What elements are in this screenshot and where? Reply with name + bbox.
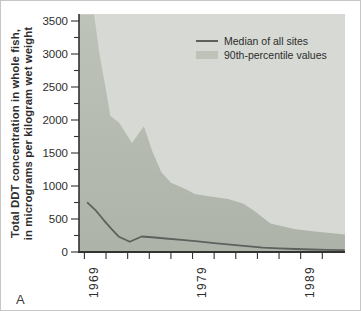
y-tick-label: 0 [62, 246, 68, 258]
legend-item-median: Median of all sites [196, 35, 327, 48]
x-tick-label: 1989 [303, 266, 317, 298]
legend-item-p90: 90th-percentile values [196, 49, 327, 62]
subfigure-label: A [16, 292, 25, 307]
legend: Median of all sites 90th-percentile valu… [196, 35, 327, 61]
y-tick-label: 1000 [42, 180, 68, 192]
x-tick-label: 1979 [195, 266, 209, 298]
x-axis-ticks [84, 253, 322, 259]
y-axis-title-line2: in micrograms per kilogram wet weight [22, 9, 35, 259]
y-tick-label: 3000 [42, 48, 68, 60]
legend-label-median: Median of all sites [224, 35, 308, 47]
y-tick-label: 3500 [42, 15, 68, 27]
x-axis-tick-labels: 196919791989 [87, 266, 317, 298]
y-tick-label: 1500 [42, 147, 68, 159]
figure-panel-a: 0500100015002000250030003500196919791989… [0, 0, 361, 311]
y-axis-title: Total DDT concentration in whole fish, i… [9, 9, 36, 259]
y-tick-label: 500 [49, 213, 68, 225]
legend-label-p90: 90th-percentile values [224, 49, 327, 61]
y-axis-ticks: 0500100015002000250030003500 [42, 15, 79, 258]
y-tick-label: 2000 [42, 114, 68, 126]
y-axis-title-line1: Total DDT concentration in whole fish, [9, 9, 22, 259]
y-tick-label: 2500 [42, 81, 68, 93]
legend-line-swatch [196, 40, 218, 42]
x-tick-label: 1969 [87, 266, 101, 298]
legend-area-swatch [196, 51, 218, 59]
